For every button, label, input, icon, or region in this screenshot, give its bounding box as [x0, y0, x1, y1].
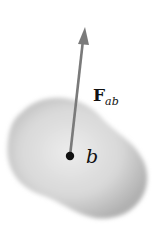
free-body-diagram: Fab b [0, 0, 156, 228]
point-b [66, 152, 74, 160]
force-label: Fab [93, 85, 119, 108]
body-blob [7, 98, 147, 219]
arrowhead-icon [78, 27, 89, 45]
body-label: b [86, 145, 98, 167]
